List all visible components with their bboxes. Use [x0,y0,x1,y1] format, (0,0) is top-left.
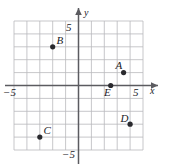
point-d-label: D [120,112,129,124]
y-axis-arrowhead [75,8,82,15]
y-axis-positive-tick-label: 5 [66,21,72,33]
y-axis-negative-tick-label: −5 [62,148,75,160]
x-axis-name: x [149,85,155,96]
point-b-marker [50,44,55,49]
x-axis-negative-tick-label: −5 [3,86,16,98]
point-a-label: A [115,59,123,71]
coordinate-plane-figure: A B C D E −5 5 5 −5 x y [0,0,170,168]
y-axis-name: y [83,7,89,18]
x-axis-positive-tick-label: 5 [133,86,139,98]
point-e-label: E [103,86,111,98]
point-c-marker [37,135,42,140]
axis-names: x y [83,7,155,96]
coordinate-grid-svg: A B C D E −5 5 5 −5 x y [0,0,170,168]
axis-tick-labels: −5 5 5 −5 [3,21,139,160]
point-b-label: B [57,34,64,46]
point-c-label: C [44,124,52,136]
